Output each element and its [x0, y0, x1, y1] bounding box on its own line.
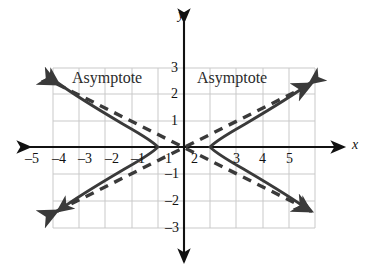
y-tick-label--2: –2	[165, 194, 179, 208]
y-tick-label-2: 2	[171, 87, 178, 101]
graph-canvas	[0, 0, 376, 277]
x-tick-label--1: –1	[131, 152, 145, 166]
hyperbola-figure: –5 –4 –3 –2 –1 1 2 3 4 5 3 2 1 –1 –2 –3 …	[0, 0, 376, 277]
x-tick-label-5: 5	[286, 152, 293, 166]
y-tick-label-3: 3	[171, 61, 178, 75]
x-tick-label--3: –3	[78, 152, 92, 166]
x-tick-label-3: 3	[233, 152, 240, 166]
x-tick-label--5: –5	[25, 152, 39, 166]
x-tick-label-2: 2	[191, 152, 198, 166]
y-tick-label--3: –3	[165, 221, 179, 235]
x-axis-label: x	[352, 138, 358, 152]
axis-lines	[30, 22, 344, 262]
asymptote-label-left: Asymptote	[72, 70, 142, 86]
y-axis-label: y	[178, 8, 184, 22]
x-tick-label--4: –4	[52, 152, 66, 166]
x-tick-label--2: –2	[105, 152, 119, 166]
asymptote-label-right: Asymptote	[197, 70, 267, 86]
x-tick-label-4: 4	[259, 152, 266, 166]
y-tick-label--1: –1	[165, 167, 179, 181]
x-tick-label-1: 1	[165, 152, 172, 166]
y-tick-label-1: 1	[171, 114, 178, 128]
